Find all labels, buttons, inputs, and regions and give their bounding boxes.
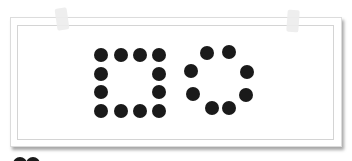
- paper-note: [10, 17, 342, 147]
- square-of-dots-dot-icon: [133, 104, 147, 118]
- circle-of-dots-dot-icon: [239, 88, 253, 102]
- square-of-dots-dot-icon: [114, 104, 128, 118]
- square-of-dots-dot-icon: [133, 48, 147, 62]
- square-of-dots-dot-icon: [94, 48, 108, 62]
- circle-of-dots-dot-icon: [240, 65, 254, 79]
- circle-of-dots-dot-icon: [186, 87, 200, 101]
- tape-left: [55, 7, 70, 30]
- square-of-dots-dot-icon: [152, 48, 166, 62]
- inner-border: [17, 25, 334, 140]
- square-of-dots-dot-icon: [114, 48, 128, 62]
- square-of-dots-dot-icon: [94, 104, 108, 118]
- circle-of-dots-dot-icon: [222, 101, 236, 115]
- partial-dot-icon: [13, 157, 27, 161]
- square-of-dots-dot-icon: [152, 85, 166, 99]
- tape-right: [286, 10, 300, 33]
- partial-dot-icon: [26, 157, 40, 161]
- square-of-dots-dot-icon: [152, 67, 166, 81]
- square-of-dots-dot-icon: [94, 67, 108, 81]
- square-of-dots-dot-icon: [94, 85, 108, 99]
- circle-of-dots-dot-icon: [200, 46, 214, 60]
- square-of-dots-dot-icon: [152, 104, 166, 118]
- circle-of-dots-dot-icon: [205, 101, 219, 115]
- circle-of-dots-dot-icon: [222, 45, 236, 59]
- circle-of-dots-dot-icon: [184, 64, 198, 78]
